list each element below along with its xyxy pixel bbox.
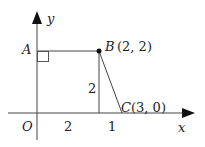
point-c-coords: (3, 0) xyxy=(131,100,166,115)
y-axis-arrow-icon xyxy=(32,11,42,24)
x-length-label-1: 1 xyxy=(108,119,116,134)
point-b-coords: (2, 2) xyxy=(117,39,152,54)
point-b xyxy=(97,49,102,54)
x-axis-label: x xyxy=(178,120,186,135)
point-c-name: C xyxy=(121,100,131,115)
right-angle-marker xyxy=(38,52,49,62)
segment-bc xyxy=(99,51,122,113)
y-axis-label: y xyxy=(46,11,55,26)
point-b-name: B xyxy=(104,39,115,54)
origin-label: O xyxy=(22,119,33,134)
coordinate-diagram: y x O A B (2, 2) C (3, 0) 2 2 1 xyxy=(0,0,205,147)
x-length-label-2: 2 xyxy=(64,119,72,134)
x-axis-arrow-icon xyxy=(182,108,195,118)
point-a-name: A xyxy=(21,42,31,57)
vertical-length-label: 2 xyxy=(88,81,96,96)
